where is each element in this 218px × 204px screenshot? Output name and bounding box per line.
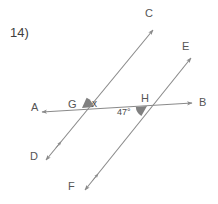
point-label-g: G: [68, 99, 77, 110]
angle-label-x: x: [92, 99, 97, 109]
point-label-f: F: [68, 181, 75, 192]
geometry-problem-page: 14) A B C D E F G H x 47°: [0, 0, 218, 204]
angle-label-47: 47°: [117, 108, 131, 117]
line-dc: [46, 30, 153, 160]
point-label-b: B: [199, 97, 206, 108]
point-label-a: A: [31, 102, 38, 113]
parallel-mark-dc: [56, 143, 60, 148]
point-label-c: C: [145, 8, 153, 19]
point-label-h: H: [141, 93, 149, 104]
line-fe: [85, 58, 191, 190]
parallel-mark-fe: [93, 175, 97, 180]
point-label-e: E: [182, 41, 189, 52]
point-label-d: D: [30, 151, 38, 162]
